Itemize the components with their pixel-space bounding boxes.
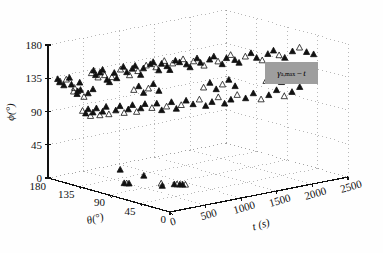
legend-box[interactable]: γa,max−t <box>265 62 318 84</box>
data-point-marker <box>219 81 225 87</box>
svg-text:45: 45 <box>31 139 43 151</box>
data-point-marker <box>120 63 126 69</box>
svg-text:2500: 2500 <box>339 177 364 195</box>
svg-text:2000: 2000 <box>303 184 328 202</box>
svg-text:ϕ(°): ϕ(°) <box>4 103 17 121</box>
legend-entry-label: γa,max−t <box>277 68 306 78</box>
data-point-marker <box>154 100 160 106</box>
data-point-marker <box>242 53 248 59</box>
data-point-marker <box>111 70 117 76</box>
data-point-marker <box>142 101 148 107</box>
data-point-marker <box>194 55 200 61</box>
plot-canvas: 18013590450ϕ(°)18013590450θ(°)0500100015… <box>0 0 383 253</box>
data-point-marker <box>211 53 217 59</box>
data-point-marker <box>250 90 256 96</box>
svg-text:180: 180 <box>26 39 43 51</box>
data-point-marker <box>296 44 302 50</box>
data-point-marker <box>132 63 138 69</box>
data-point-marker <box>232 83 238 89</box>
data-point-marker <box>281 93 287 99</box>
data-point-marker <box>289 89 295 95</box>
data-point-marker <box>226 76 232 82</box>
data-point-marker <box>129 102 135 108</box>
svg-text:θ(°): θ(°) <box>85 210 105 227</box>
svg-text:1000: 1000 <box>232 198 257 216</box>
data-point-marker <box>215 94 221 100</box>
data-point-marker <box>93 105 99 111</box>
data-point-marker <box>77 79 83 85</box>
data-point-marker <box>117 103 123 109</box>
data-point-marker <box>85 106 91 112</box>
data-point-marker <box>183 97 189 103</box>
data-point-marker <box>203 103 209 109</box>
data-point-marker <box>117 166 123 172</box>
data-point-marker <box>265 51 271 57</box>
data-point-marker <box>213 86 219 92</box>
svg-text:135: 135 <box>58 188 75 200</box>
data-point-marker <box>150 81 156 87</box>
data-point-marker <box>106 111 112 117</box>
svg-text:45: 45 <box>125 205 137 217</box>
data-point-marker <box>297 84 303 90</box>
data-point-marker <box>234 92 240 98</box>
figure-3d-scatter: 18013590450ϕ(°)18013590450θ(°)0500100015… <box>0 0 383 253</box>
data-point-marker <box>311 51 317 57</box>
svg-text:90: 90 <box>31 106 43 118</box>
svg-text:500: 500 <box>199 206 219 222</box>
data-point-marker <box>258 96 264 102</box>
data-point-marker <box>222 100 228 106</box>
svg-text:0: 0 <box>169 214 178 227</box>
data-point-marker <box>303 49 309 55</box>
data-point-marker <box>207 80 213 86</box>
data-point-marker <box>190 101 196 107</box>
data-point-marker <box>136 83 142 89</box>
svg-text:t (s): t (s) <box>251 216 272 233</box>
data-point-marker <box>228 96 234 102</box>
svg-text:90: 90 <box>94 196 106 208</box>
data-point-marker <box>138 72 144 78</box>
data-point-marker <box>168 99 174 105</box>
data-point-marker <box>289 48 295 54</box>
data-point-marker <box>243 95 249 101</box>
data-point-marker <box>209 99 215 105</box>
data-point-marker <box>228 52 234 58</box>
data-point-marker <box>156 88 162 94</box>
data-point-marker <box>90 86 96 92</box>
svg-text:1500: 1500 <box>267 191 292 209</box>
svg-text:135: 135 <box>26 72 43 84</box>
data-point-marker <box>196 96 202 102</box>
data-point-marker <box>103 103 109 109</box>
svg-text:0: 0 <box>161 213 167 225</box>
data-point-marker <box>200 84 206 90</box>
svg-text:180: 180 <box>30 180 47 192</box>
data-point-marker <box>270 47 276 53</box>
data-point-marker <box>266 92 272 98</box>
data-point-marker <box>273 87 279 93</box>
